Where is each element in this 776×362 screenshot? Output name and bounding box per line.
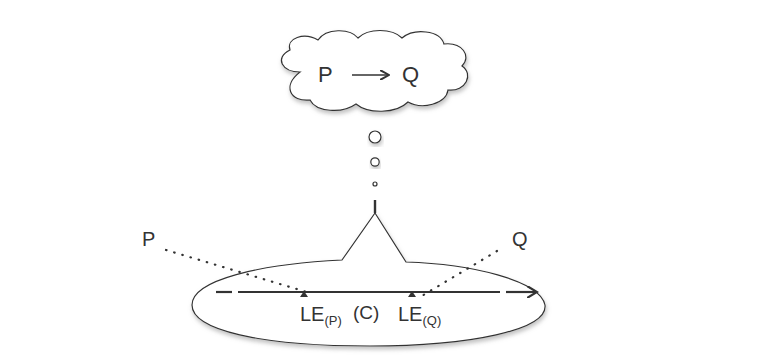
marker-p-sub: (P)	[324, 313, 341, 328]
main-timeline	[22, 200, 750, 213]
middle-label-c: (C)	[353, 302, 379, 323]
diagram-canvas: P Q P Q LE(P) (C) LE(Q)	[0, 0, 776, 362]
cloud-label-p: P	[318, 62, 333, 87]
outer-label-p: P	[142, 228, 155, 250]
zoom-callout	[192, 213, 545, 346]
bubble-medium-icon	[371, 158, 379, 166]
thought-bubbles	[369, 131, 381, 186]
marker-q-sub: (Q)	[422, 313, 441, 328]
outer-label-q: Q	[512, 228, 528, 250]
bubble-small-icon	[373, 182, 377, 186]
cloud-label-q: Q	[402, 62, 419, 87]
marker-q-base: LE	[398, 303, 422, 325]
callout-ellipse	[192, 213, 545, 346]
marker-p-base: LE	[300, 303, 324, 325]
bubble-large-icon	[369, 131, 381, 143]
thought-cloud: P Q	[281, 31, 467, 112]
